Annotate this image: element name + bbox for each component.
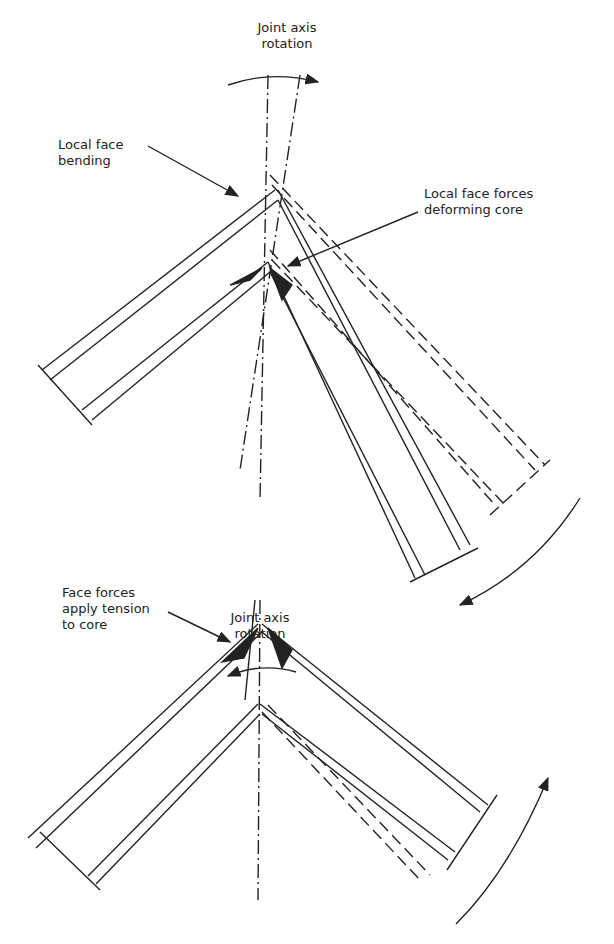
bottom-joint <box>28 600 548 924</box>
top-callout-left: Local face bending <box>58 137 124 169</box>
bottom-axis-label: Joint axis rotation <box>205 610 315 642</box>
bottom-callout-left: Face forces apply tension to core <box>62 585 150 633</box>
top-axis-label: Joint axis rotation <box>232 20 342 52</box>
top-callout-right: Local face forces deforming core <box>424 186 533 218</box>
